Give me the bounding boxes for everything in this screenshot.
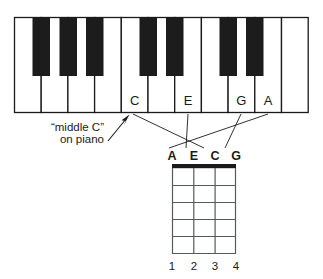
fret-number-4: 4 [233,260,240,272]
diagram-canvas: C E G A “middle C” on piano [0,0,323,279]
leader-lines [133,114,268,148]
leader-line-e [186,114,188,148]
black-keys [33,18,263,76]
chord-string-label-e: E [190,149,198,163]
black-key-3[interactable] [87,18,104,76]
keyboard-label-e: E [184,93,193,108]
chord-string-label-g: G [231,149,241,163]
middle-c-pointer-line [108,119,126,141]
fretboard-grid [172,168,236,254]
middle-c-line2: on piano [60,133,104,145]
chord-fret-numbers: 1 2 3 4 [169,260,240,272]
black-key-5[interactable] [167,18,184,76]
keyboard-label-a: A [264,93,273,108]
piano-keyboard: C E G A [15,18,309,113]
chord-nut [172,164,236,168]
music-diagram-figure: C E G A “middle C” on piano [0,0,323,279]
chord-diagram: A E C G 1 [167,149,240,272]
leader-line-c [133,114,204,148]
fret-number-2: 2 [191,260,197,272]
white-key-11[interactable] [282,18,309,113]
black-key-2[interactable] [60,18,77,76]
fret-number-1: 1 [169,260,175,272]
leader-line-a [169,114,268,148]
chord-string-label-a: A [167,149,176,163]
keyboard-label-g: G [236,93,246,108]
keyboard-label-c: C [130,93,139,108]
black-key-4[interactable] [140,18,157,76]
middle-c-annotation: “middle C” on piano [51,115,130,146]
middle-c-line1: “middle C” [51,121,104,133]
chord-string-labels: A E C G [167,149,240,163]
black-key-1[interactable] [33,18,50,76]
leader-line-g [225,114,241,148]
chord-string-label-c: C [210,149,219,163]
black-key-7[interactable] [247,18,264,76]
fret-number-3: 3 [212,260,218,272]
black-key-6[interactable] [220,18,237,76]
